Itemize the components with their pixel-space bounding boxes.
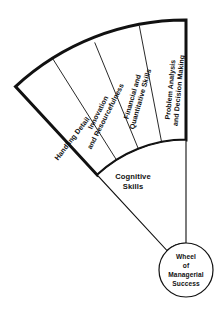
- wheel-diagram-canvas: Problem Analysis and Decision Making Fin…: [0, 0, 214, 312]
- cognitive-skills-label-line: Cognitive: [115, 172, 151, 181]
- hub-label-line: Managerial: [168, 271, 204, 279]
- hub-label-line: of: [183, 262, 190, 269]
- wheel-of-managerial-success-diagram: Problem Analysis and Decision Making Fin…: [0, 0, 214, 312]
- hub-label-line: Wheel: [176, 253, 196, 260]
- hub-label-line: Success: [172, 280, 200, 287]
- cognitive-skills-label-line: Skills: [123, 182, 143, 191]
